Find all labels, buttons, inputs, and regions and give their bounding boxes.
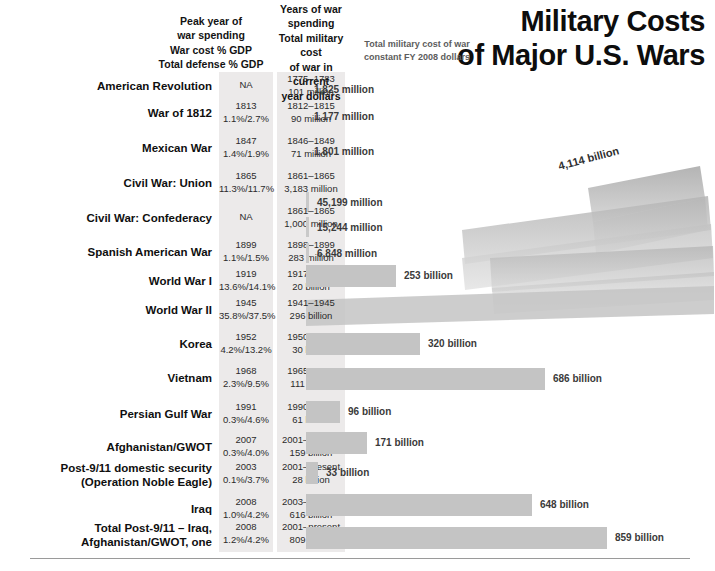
row-war-name: Korea [0, 337, 212, 351]
row-war-name: Persian Gulf War [0, 407, 212, 421]
cost-bar [306, 401, 340, 423]
row-peak-year-cell: 2008 1.0%/4.2% [219, 496, 273, 522]
row-war-name: Civil War: Union [0, 176, 212, 190]
row-war-name: World War II [0, 303, 212, 317]
bar-value-label: 1,801 million [314, 146, 374, 157]
row-peak-year-cell: 1847 1.4%/1.9% [219, 135, 273, 161]
bar-value-label: 33 billion [326, 467, 369, 478]
bar-value-label: 1,825 million [314, 84, 374, 95]
bar-value-label: 859 billion [615, 532, 664, 543]
row-years-cell: 1861–1865 3,183 million [277, 170, 345, 196]
row-peak-year-cell: 1968 2.3%/9.5% [219, 365, 273, 391]
row-peak-year-cell: NA [219, 79, 273, 92]
row-peak-year-cell: 2003 0.1%/3.7% [219, 461, 273, 487]
bar-value-label: 96 billion [348, 406, 391, 417]
bar-label-world-war-2: 4,114 billion [557, 144, 620, 172]
bar-value-label: 171 billion [375, 437, 424, 448]
cost-bar [306, 265, 396, 287]
infographic-root: Military Costs of Major U.S. Wars Peak y… [0, 0, 715, 571]
cost-bar [306, 462, 318, 484]
row-war-name: Afghanistan/GWOT [0, 440, 212, 454]
row-years-cell: 1941–1945 296 billion [277, 297, 345, 323]
bar-value-label: 6,848 million [317, 248, 377, 259]
footer-divider [30, 558, 690, 559]
row-war-name: American Revolution [0, 79, 212, 93]
row-peak-year-cell: 2008 1.2%/4.2% [219, 521, 273, 547]
row-peak-year-cell: 1952 4.2%/13.2% [219, 331, 273, 357]
row-peak-year-cell: 1991 0.3%/4.6% [219, 401, 273, 427]
row-war-name: Iraq [0, 502, 212, 516]
bar-value-label: 686 billion [553, 373, 602, 384]
row-peak-year-cell: 1945 35.8%/37.5% [219, 297, 273, 323]
header-peak-column: Peak year of war spending War cost % GDP… [150, 14, 272, 72]
cost-bar [306, 368, 545, 390]
bar-value-label: 320 billion [428, 338, 477, 349]
title-line-1: Military Costs [375, 4, 705, 38]
row-peak-year-cell: 2007 0.3%/4.0% [219, 434, 273, 460]
row-war-name: Vietnam [0, 371, 212, 385]
row-war-name: World War I [0, 274, 212, 288]
row-peak-year-cell: 1813 1.1%/2.7% [219, 100, 273, 126]
cost-bar [306, 527, 607, 549]
row-peak-year-cell: NA [219, 211, 273, 224]
header-constant-dollars-column: Total military cost of war constant FY 2… [352, 38, 482, 64]
row-peak-year-cell: 1865 11.3%/11.7% [219, 170, 273, 196]
bar-value-label: 648 billion [540, 499, 589, 510]
row-peak-year-cell: 1899 1.1%/1.5% [219, 239, 273, 265]
row-peak-year-cell: 1919 13.6%/14.1% [219, 268, 273, 294]
row-war-name: War of 1812 [0, 106, 212, 120]
cost-bar [306, 217, 309, 237]
bar-value-label: 253 billion [404, 270, 453, 281]
bar-value-label: 15,244 million [317, 222, 383, 233]
row-war-name: Spanish American War [0, 245, 212, 259]
row-war-name: Mexican War [0, 141, 212, 155]
row-war-name: Civil War: Confederacy [0, 211, 212, 225]
row-war-name: Post-9/11 domestic security (Operation N… [0, 461, 212, 490]
row-war-name: Total Post-9/11 – Iraq, Afghanistan/GWOT… [0, 521, 212, 550]
cost-bar [306, 432, 367, 454]
cost-bar [306, 333, 420, 355]
cost-bar [306, 494, 532, 516]
bar-value-label: 1,177 million [314, 111, 374, 122]
cost-bar [306, 243, 309, 263]
